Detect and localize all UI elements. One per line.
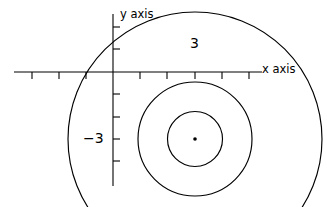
x-axis-tick-label-3: 3 [190,36,199,50]
x-axis-group [14,72,262,79]
x-axis-label: x axis [262,64,296,76]
y-axis-tick-label-neg3: −3 [83,131,104,145]
center-point-dot [193,137,197,141]
graph-figure: x axis y axis 3 −3 [0,0,327,207]
plot-canvas [0,0,327,207]
y-axis-label: y axis [120,9,154,21]
